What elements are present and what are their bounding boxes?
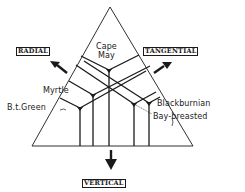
point-myrtle <box>90 94 96 98</box>
point-bt-green <box>77 107 83 111</box>
species-label-myrtle: Myrtle <box>43 87 69 95</box>
species-bt-green-lines <box>60 71 146 146</box>
point-blackburnian <box>146 102 152 106</box>
species-cape-may-lines <box>81 55 139 146</box>
species-label-cape-may-line1: Cape <box>96 43 117 51</box>
axis-label-tangential: TANGENTIAL <box>143 47 198 56</box>
axis-label-radial: RADIAL <box>16 47 50 56</box>
species-points <box>77 69 152 111</box>
point-cape-may <box>106 69 112 73</box>
vertical-arrow-icon <box>105 150 117 170</box>
species-label-cape-may-line2: May <box>98 52 115 60</box>
ternary-triangle <box>32 7 193 146</box>
triangular-niche-diagram <box>0 0 245 192</box>
species-label-blackburnian: Blackburnian <box>157 100 210 108</box>
species-label-bay-breasted: Bay-breasted <box>153 113 207 121</box>
axis-label-vertical: VERTICAL <box>82 179 126 188</box>
species-label-bt-green: B.t.Green <box>7 104 46 112</box>
tangential-arrow-icon <box>154 62 172 73</box>
radial-arrow-icon <box>50 61 67 73</box>
leader-bt-green <box>60 109 66 110</box>
species-bay-breasted-lines <box>76 65 156 146</box>
